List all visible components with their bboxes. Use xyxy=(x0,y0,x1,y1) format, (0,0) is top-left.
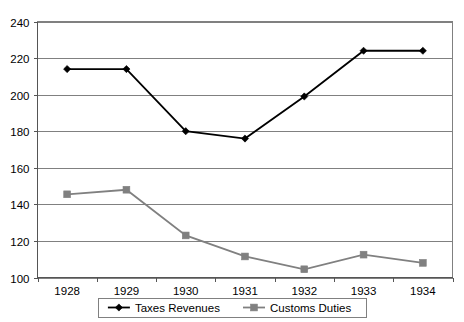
y-tick-label: 160 xyxy=(10,163,29,175)
series-line-taxes-revenues xyxy=(67,51,423,139)
legend-label: Customs Duties xyxy=(270,302,351,314)
chart-container: 100120140160180200220240 192819291930193… xyxy=(0,0,464,322)
legend-marker xyxy=(251,304,258,311)
legend-label: Taxes Revenues xyxy=(135,302,220,314)
data-point-marker xyxy=(242,253,249,260)
data-point-marker xyxy=(419,47,426,54)
series-markers-group xyxy=(64,47,427,273)
x-axis-tick-labels: 1928192919301931193219331934 xyxy=(54,285,436,297)
y-tick-label: 100 xyxy=(10,273,29,285)
y-tick-label: 240 xyxy=(10,17,29,29)
y-tick-label: 200 xyxy=(10,90,29,102)
x-tick-label: 1933 xyxy=(351,285,377,297)
y-tick-label: 140 xyxy=(10,199,29,211)
x-tick-label: 1934 xyxy=(410,285,436,297)
data-point-marker xyxy=(360,251,367,258)
x-tick-label: 1930 xyxy=(173,285,199,297)
x-tick-label: 1929 xyxy=(114,285,140,297)
data-point-marker xyxy=(301,266,308,273)
data-point-marker xyxy=(123,186,130,193)
gridlines-group xyxy=(38,23,453,279)
x-tick-label: 1928 xyxy=(54,285,80,297)
y-axis-tick-labels: 100120140160180200220240 xyxy=(10,17,29,285)
y-tick-label: 220 xyxy=(10,53,29,65)
chart-legend: Taxes RevenuesCustoms Duties xyxy=(99,299,367,318)
x-tick-label: 1931 xyxy=(232,285,258,297)
data-point-marker xyxy=(64,65,71,72)
data-point-marker xyxy=(64,191,71,198)
line-chart: 100120140160180200220240 192819291930193… xyxy=(0,0,464,322)
axis-lines xyxy=(38,22,453,278)
x-tick-label: 1932 xyxy=(291,285,317,297)
y-tick-label: 120 xyxy=(10,236,29,248)
data-point-marker xyxy=(182,232,189,239)
data-point-marker xyxy=(419,259,426,266)
series-lines-group xyxy=(67,51,423,270)
y-tick-label: 180 xyxy=(10,126,29,138)
plot-area-border xyxy=(38,22,453,278)
